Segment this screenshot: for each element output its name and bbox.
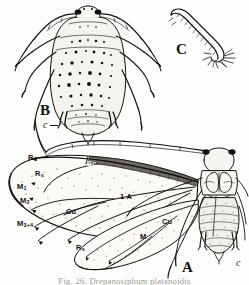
figure-label-a: A	[182, 260, 193, 275]
vein-label-m34: M3+4	[17, 220, 33, 229]
vein-label-cu-forewing: Cu	[66, 208, 76, 217]
figure-label-b: B	[40, 103, 50, 118]
vein-label-r1: R1	[28, 154, 37, 163]
figure-c-cornicle-detail: C	[168, 6, 246, 68]
vein-label-m-hindwing: M	[140, 233, 146, 242]
vein-label-m1: M1	[17, 183, 27, 192]
vein-label-cu-hindwing: Cu	[162, 218, 172, 227]
vein-label-1a: 1 A	[120, 193, 132, 202]
cornicle-label-a: c	[236, 258, 240, 268]
vein-label-m2: M2	[20, 197, 30, 206]
vein-label-rs: Rs	[35, 170, 44, 179]
vein-label-sc: Sc	[87, 160, 97, 169]
plate-caption: Fig. 26. Drepanosiphum platanoidis	[0, 276, 249, 285]
figure-a-alate-aphid: R1 Rs M1 M2 M3+4 Cu Sc 1 A Rs M Cu	[2, 120, 249, 280]
vein-label-rs-hindwing: Rs	[76, 244, 85, 253]
figure-label-c: C	[176, 42, 187, 57]
